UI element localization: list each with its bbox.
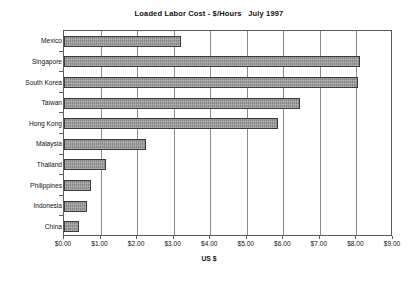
x-tick-label: $8.00 bbox=[347, 240, 364, 247]
x-tick bbox=[392, 236, 393, 239]
category-label: Singapore bbox=[32, 57, 62, 64]
category-label: Philippines bbox=[30, 181, 62, 188]
category-tick bbox=[59, 174, 63, 175]
value-axis: $0.00$1.00$2.00$3.00$4.00$5.00$6.00$7.00… bbox=[0, 236, 418, 256]
category-tick bbox=[59, 195, 63, 196]
x-tick bbox=[100, 236, 101, 239]
category-tick bbox=[59, 71, 63, 72]
x-tick bbox=[63, 236, 64, 239]
x-tick bbox=[136, 236, 137, 239]
x-tick bbox=[282, 236, 283, 239]
category-label: Indonesia bbox=[33, 202, 62, 209]
category-tick bbox=[59, 92, 63, 93]
x-tick-label: $0.00 bbox=[55, 240, 72, 247]
category-label: South Korea bbox=[25, 78, 62, 85]
category-tick bbox=[59, 154, 63, 155]
category-label: Hong Kong bbox=[29, 119, 62, 126]
x-tick bbox=[246, 236, 247, 239]
x-tick-label: $5.00 bbox=[238, 240, 255, 247]
category-tick bbox=[59, 215, 63, 216]
category-tick bbox=[59, 133, 63, 134]
chart-title: Loaded Labor Cost - $/Hours July 1997 bbox=[0, 9, 418, 18]
x-axis-title: US $ bbox=[0, 255, 418, 262]
category-label: Taiwan bbox=[41, 99, 62, 106]
x-tick-label: $3.00 bbox=[164, 240, 181, 247]
x-tick-label: $4.00 bbox=[201, 240, 218, 247]
category-tick bbox=[59, 112, 63, 113]
category-label: Mexico bbox=[41, 37, 62, 44]
x-tick bbox=[173, 236, 174, 239]
bar-chart: Loaded Labor Cost - $/Hours July 1997 Me… bbox=[0, 0, 418, 281]
x-tick bbox=[209, 236, 210, 239]
category-tick bbox=[59, 51, 63, 52]
x-tick-label: $2.00 bbox=[128, 240, 145, 247]
x-tick bbox=[355, 236, 356, 239]
x-tick-label: $6.00 bbox=[274, 240, 291, 247]
x-tick-label: $7.00 bbox=[311, 240, 328, 247]
category-axis: MexicoSingaporeSouth KoreaTaiwanHong Kon… bbox=[0, 30, 418, 236]
category-label: China bbox=[45, 222, 62, 229]
category-label: Thailand bbox=[37, 160, 62, 167]
x-tick bbox=[319, 236, 320, 239]
x-tick-label: $1.00 bbox=[91, 240, 108, 247]
category-label: Malaysia bbox=[36, 140, 62, 147]
x-tick-label: $9.00 bbox=[384, 240, 401, 247]
